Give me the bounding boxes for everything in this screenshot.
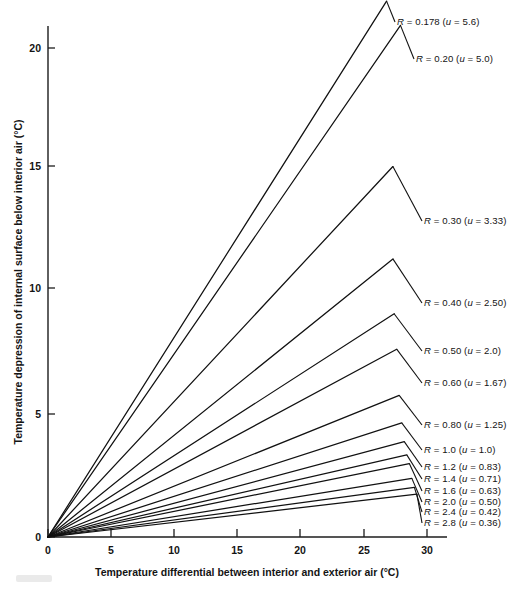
- data-line: [48, 1, 387, 537]
- data-line: [48, 464, 409, 537]
- y-tick-label-15: 15: [29, 160, 41, 172]
- line-chart-svg: 0 5 10 15 20 0 5 10 15 20 25 30 Temperat…: [0, 0, 513, 591]
- label-leader: [394, 314, 422, 351]
- series-label: R = 2.4 (u = 0.42): [424, 506, 501, 517]
- series-label: R = 0.20 (u = 5.0): [416, 53, 493, 64]
- x-axis-tick-labels: 0 5 10 15 20 25 30: [45, 544, 433, 556]
- series-label: R = 0.30 (u = 3.33): [424, 215, 506, 226]
- x-tick-label-20: 20: [294, 544, 306, 556]
- y-axis-tick-labels: 0 5 10 15 20: [29, 42, 41, 543]
- chart-figure: 0 5 10 15 20 0 5 10 15 20 25 30 Temperat…: [0, 0, 513, 591]
- data-line: [48, 442, 404, 537]
- data-lines-group: [48, 1, 417, 537]
- series-label: R = 1.6 (u = 0.63): [424, 485, 501, 496]
- label-leader: [400, 25, 414, 59]
- label-leader: [399, 395, 422, 425]
- y-tick-label-20: 20: [29, 42, 41, 54]
- data-line: [48, 259, 393, 537]
- series-label: R = 0.50 (u = 2.0): [424, 345, 501, 356]
- series-label: R = 1.2 (u = 0.83): [424, 461, 501, 472]
- label-leader: [393, 259, 422, 303]
- y-tick-label-5: 5: [35, 408, 41, 420]
- series-label: R = 0.40 (u = 2.50): [424, 297, 506, 308]
- series-label: R = 2.8 (u = 0.36): [424, 517, 501, 528]
- y-axis-title: Temperature depression of internal surfa…: [12, 120, 24, 445]
- y-tick-label-10: 10: [29, 282, 41, 294]
- label-leader: [393, 167, 422, 221]
- y-tick-label-0: 0: [35, 531, 41, 543]
- x-tick-label-5: 5: [108, 544, 114, 556]
- x-tick-label-30: 30: [421, 544, 433, 556]
- series-label: R = 0.178 (u = 5.6): [397, 16, 479, 27]
- x-tick-label-15: 15: [231, 544, 243, 556]
- x-tick-label-0: 0: [45, 544, 51, 556]
- label-leader: [412, 478, 422, 502]
- x-axis-title: Temperature differential between interio…: [95, 566, 399, 578]
- series-label: R = 1.0 (u = 1.0): [424, 444, 496, 455]
- y-axis-ticks: [48, 48, 55, 537]
- page-artifact-mark: [16, 575, 52, 582]
- data-line: [48, 395, 399, 537]
- series-label: R = 1.4 (u = 0.71): [424, 473, 501, 484]
- data-line: [48, 314, 394, 537]
- label-leader: [387, 1, 395, 22]
- series-label: R = 0.80 (u = 1.25): [424, 419, 506, 430]
- series-labels-group: R = 0.178 (u = 5.6)R = 0.20 (u = 5.0)R =…: [397, 16, 506, 528]
- label-leader: [397, 349, 422, 383]
- x-tick-label-25: 25: [358, 544, 370, 556]
- axes-group: [48, 26, 447, 537]
- x-tick-label-10: 10: [168, 544, 180, 556]
- label-leader: [402, 423, 422, 450]
- data-line: [48, 25, 400, 537]
- series-label: R = 0.60 (u = 1.67): [424, 377, 506, 388]
